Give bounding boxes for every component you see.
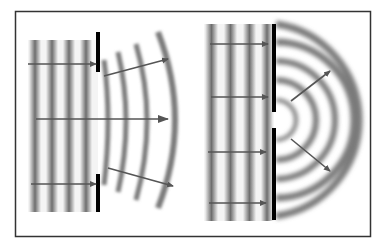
barrier-bottom: [272, 128, 276, 220]
diffraction-diagram: [0, 0, 386, 249]
barrier-top: [272, 24, 276, 112]
incident-plane-waves: [28, 40, 98, 212]
incident-plane-waves: [204, 24, 274, 221]
barrier-top: [96, 32, 100, 72]
barrier-bottom: [96, 174, 100, 212]
